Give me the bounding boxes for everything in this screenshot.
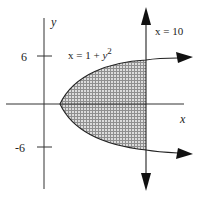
y-tick-label-neg6: -6: [15, 141, 25, 155]
y-tick-label-6: 6: [21, 50, 27, 64]
x-axis-label: x: [179, 112, 186, 126]
parabola-arrow-upper-icon: [176, 52, 193, 63]
y-axis-label: y: [50, 15, 57, 29]
curve-label-prefix: x = 1 +: [68, 49, 102, 61]
curve-label: x = 1 + y2: [68, 46, 112, 61]
line-arrow-down-icon: [141, 173, 151, 191]
region-diagram: y x 6 -6 x = 10 x = 1 + y2: [0, 0, 201, 198]
parabola-arrow-lower-icon: [176, 148, 193, 159]
curve-label-exp: 2: [107, 46, 112, 56]
shaded-region: [60, 60, 146, 150]
line-label: x = 10: [155, 25, 184, 37]
line-arrow-up-icon: [141, 7, 151, 25]
